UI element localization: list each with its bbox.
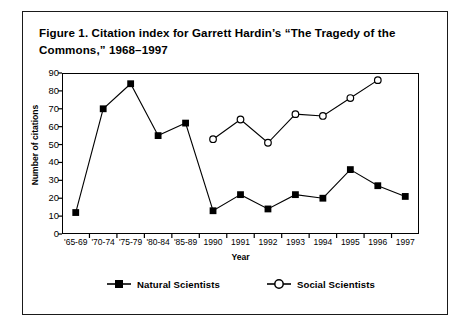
data-point (375, 77, 382, 84)
figure-container: Figure 1. Citation index for Garrett Har… (22, 11, 448, 315)
x-axis-tick-8084: '80-84 (144, 238, 171, 247)
x-axis-tick-7579: '75-79 (117, 238, 144, 247)
data-point (155, 132, 162, 139)
data-point (210, 207, 217, 214)
x-axis-tick-1997: 1997 (392, 238, 419, 247)
data-point (237, 116, 244, 123)
data-point (292, 111, 299, 118)
chart-plot-area: 0102030405060708090 Number of citations … (23, 12, 449, 316)
legend-label-social-scientists: Social Scientists (297, 279, 375, 290)
data-point (265, 139, 272, 146)
data-point (347, 95, 354, 102)
x-axis-tick-1990: 1990 (199, 238, 226, 247)
data-point (237, 191, 244, 198)
filled-square-icon (106, 278, 132, 290)
data-point (265, 206, 272, 213)
data-point (100, 105, 107, 112)
data-point (210, 136, 217, 143)
x-axis-tick-6569: '65-69 (62, 238, 89, 247)
x-axis-tick-1992: 1992 (254, 238, 281, 247)
x-axis-tick-1993: 1993 (282, 238, 309, 247)
x-axis-tick-1995: 1995 (337, 238, 364, 247)
data-point (347, 166, 354, 173)
x-axis-tick-1991: 1991 (227, 238, 254, 247)
data-point (182, 120, 189, 127)
data-point (374, 182, 381, 189)
x-axis-title: Year (62, 252, 419, 262)
x-axis-tick-7074: '70-74 (89, 238, 116, 247)
data-point (402, 193, 409, 200)
data-point (320, 113, 327, 120)
chart-legend: Natural Scientists Social Scientists (62, 278, 419, 290)
open-circle-icon (266, 278, 292, 290)
data-point (292, 191, 299, 198)
data-point (319, 195, 326, 202)
chart-svg (23, 12, 449, 316)
data-point (127, 80, 134, 87)
legend-item-natural-scientists: Natural Scientists (106, 278, 220, 290)
legend-label-natural-scientists: Natural Scientists (137, 279, 220, 290)
legend-item-social-scientists: Social Scientists (266, 278, 375, 290)
x-axis-tick-1996: 1996 (364, 238, 391, 247)
x-axis-tick-1994: 1994 (309, 238, 336, 247)
data-point (72, 209, 79, 216)
x-axis-tick-8589: '85-89 (172, 238, 199, 247)
